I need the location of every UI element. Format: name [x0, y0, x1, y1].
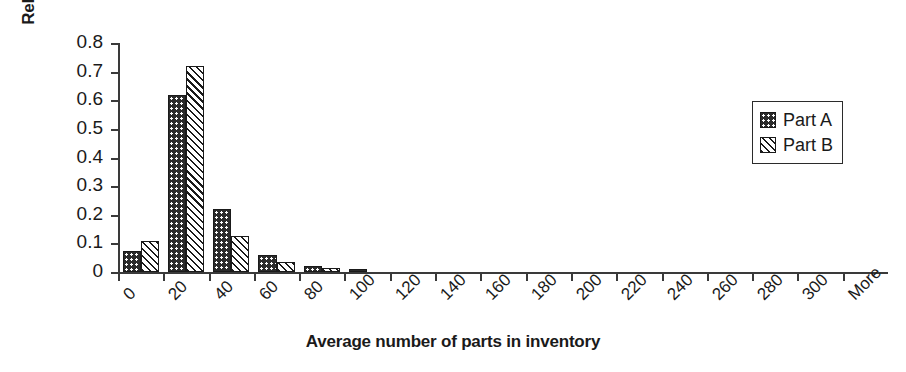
- y-axis-tick-label: 0.4: [43, 146, 103, 168]
- legend-swatch-part-a-icon: [760, 112, 776, 128]
- bar: [168, 95, 186, 272]
- x-axis-tick-label: 280: [754, 271, 787, 304]
- bar: [277, 262, 295, 272]
- x-axis-tick-label: 20: [165, 278, 191, 304]
- x-axis-tick-label: 40: [211, 278, 237, 304]
- x-axis-tick-label: 260: [709, 271, 742, 304]
- x-axis-tick: [254, 272, 256, 281]
- bar: [349, 269, 367, 272]
- x-axis-tick-label: 180: [528, 271, 561, 304]
- x-axis-tick: [435, 272, 437, 281]
- x-axis-tick: [526, 272, 528, 281]
- y-axis-tick: 0.4: [111, 158, 120, 160]
- x-axis-tick: [299, 272, 301, 281]
- y-axis-tick-label: 0: [43, 260, 103, 282]
- chart-legend: Part A Part B: [752, 101, 843, 164]
- bar: [304, 266, 322, 272]
- x-axis-tick: [209, 272, 211, 281]
- y-axis-tick: 0.2: [111, 215, 120, 217]
- x-axis-tick: [662, 272, 664, 281]
- y-axis-tick: 0.6: [111, 100, 120, 102]
- x-axis-tick: [390, 272, 392, 281]
- y-axis-tick: 0.7: [111, 72, 120, 74]
- bar: [213, 209, 231, 272]
- x-axis-tick-label: 220: [618, 271, 651, 304]
- y-axis-tick-label: 0.3: [43, 174, 103, 196]
- x-axis-tick-label: 200: [573, 271, 606, 304]
- x-axis-title: Average number of parts in inventory: [0, 332, 906, 352]
- x-axis-tick: [571, 272, 573, 281]
- x-axis-tick: [752, 272, 754, 281]
- y-axis-tick-label: 0.7: [43, 60, 103, 82]
- legend-item-part-a: Part A: [760, 107, 833, 132]
- x-axis-tick-label: 0: [120, 284, 139, 303]
- x-axis-tick-label: 120: [392, 271, 425, 304]
- x-axis-tick: [616, 272, 618, 281]
- chart-figure: Relative frequency 00.10.20.30.40.50.60.…: [0, 0, 906, 372]
- legend-label-part-a: Part A: [783, 110, 832, 130]
- y-axis-title: Relative frequency: [16, 0, 42, 66]
- legend-item-part-b: Part B: [760, 132, 833, 157]
- x-axis-tick-label: 240: [664, 271, 697, 304]
- x-axis-tick-label: 160: [482, 271, 515, 304]
- x-axis-tick: [118, 272, 120, 281]
- y-axis-tick: 0.1: [111, 243, 120, 245]
- x-axis-tick-label: 140: [437, 271, 470, 304]
- x-axis-tick: [707, 272, 709, 281]
- y-axis-tick: 0.8: [111, 43, 120, 45]
- x-axis-tick-label: 100: [346, 271, 379, 304]
- x-axis-tick-label: 300: [799, 271, 832, 304]
- x-axis-tick: [797, 272, 799, 281]
- x-axis-tick: [163, 272, 165, 281]
- y-axis-tick-label: 0.6: [43, 88, 103, 110]
- x-axis-tick-label: 60: [256, 278, 282, 304]
- bar: [231, 236, 249, 272]
- x-axis-tick-label: More: [845, 264, 885, 304]
- y-axis-tick-label: 0.8: [43, 31, 103, 53]
- bar: [141, 241, 159, 272]
- bar: [186, 66, 204, 272]
- bar: [322, 268, 340, 272]
- y-axis-tick-label: 0.5: [43, 117, 103, 139]
- y-axis-tick-label: 0.1: [43, 231, 103, 253]
- x-axis-tick: [480, 272, 482, 281]
- bar: [123, 251, 141, 272]
- bar: [258, 255, 276, 272]
- legend-label-part-b: Part B: [783, 135, 833, 155]
- x-axis-tick: [344, 272, 346, 281]
- y-axis-tick: 0.3: [111, 186, 120, 188]
- y-axis-tick: 0.5: [111, 129, 120, 131]
- x-axis-tick-label: 80: [301, 278, 327, 304]
- legend-swatch-part-b-icon: [760, 137, 776, 153]
- x-axis-tick: [843, 272, 845, 281]
- y-axis-tick-label: 0.2: [43, 203, 103, 225]
